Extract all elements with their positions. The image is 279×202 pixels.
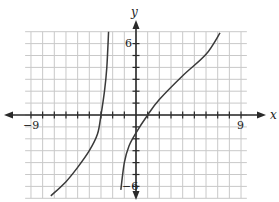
x-max-label: 9 — [237, 119, 244, 132]
x-axis-left-arrow-icon — [4, 112, 13, 119]
function-graph: x y −9 9 6 −6 — [0, 0, 279, 202]
y-max-label: 6 — [125, 37, 132, 50]
y-axis-label: y — [130, 5, 138, 19]
x-min-label: −9 — [23, 119, 39, 132]
x-axis-right-arrow-icon — [257, 112, 266, 119]
y-axis-up-arrow-icon — [133, 20, 140, 29]
curve-left-branch — [51, 32, 109, 196]
y-min-label: −6 — [122, 180, 138, 193]
axes — [4, 20, 266, 200]
x-axis-label: x — [270, 108, 277, 122]
